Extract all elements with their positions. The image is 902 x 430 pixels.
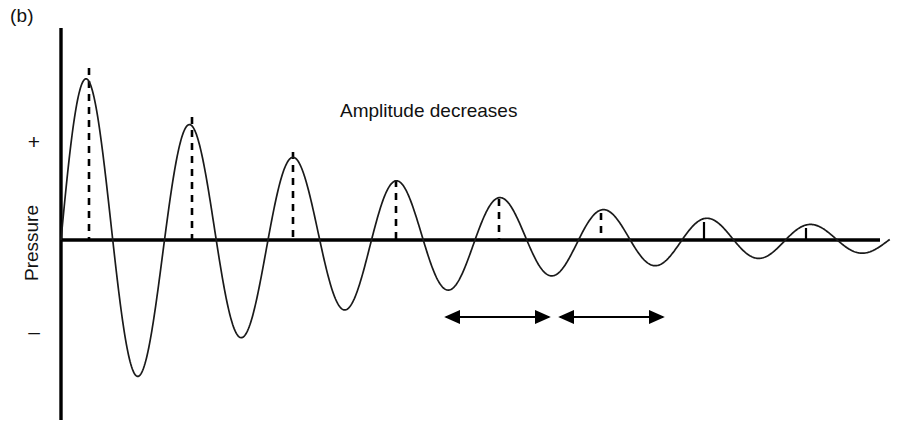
damped-wave-figure: (b) Pressure + – Amplitude decreases (0, 0, 902, 430)
damped-waveform-curve (61, 79, 890, 377)
axes-group (61, 28, 880, 420)
plot-area (0, 0, 902, 430)
peak-dashed-markers (89, 68, 806, 240)
